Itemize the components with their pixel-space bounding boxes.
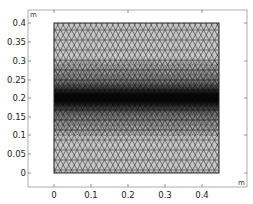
x-tick-label: 0.2 — [121, 190, 135, 200]
y-unit-label: m — [30, 11, 37, 19]
y-tick-label: 0.05 — [7, 149, 26, 159]
x-tick-label: 0 — [51, 190, 56, 200]
y-tick-label: 0.2 — [12, 93, 26, 103]
y-tick-label: 0.35 — [7, 37, 26, 47]
y-tick-label: 0.25 — [7, 75, 26, 85]
y-tick-label: 0.15 — [7, 112, 26, 122]
x-tick-label: 0.3 — [158, 190, 172, 200]
x-tick-labels: 0 0.1 0.2 0.3 0.4 — [51, 190, 208, 200]
mesh-plot: 0.4 0.35 0.3 0.25 0.2 0.15 0.1 0.05 0 m … — [0, 0, 253, 204]
y-tick-label: 0.1 — [12, 130, 26, 140]
x-unit-label: m — [238, 179, 245, 187]
y-tick-label: 0 — [21, 168, 26, 178]
mesh-domain — [54, 23, 219, 173]
x-tick-label: 0.4 — [195, 190, 209, 200]
y-tick-labels: 0.4 0.35 0.3 0.25 0.2 0.15 0.1 0.05 0 — [7, 18, 26, 178]
y-tick-label: 0.4 — [12, 18, 26, 28]
y-tick-label: 0.3 — [12, 56, 26, 66]
x-tick-label: 0.1 — [84, 190, 98, 200]
